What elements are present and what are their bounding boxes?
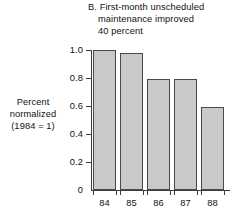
y-tick-mark	[86, 134, 92, 135]
bar-chart-figure: B. First-month unscheduled maintenance i…	[0, 0, 233, 221]
x-tick-mark	[93, 190, 94, 195]
x-tick-mark	[116, 190, 117, 195]
y-tick-label: 0.6	[70, 101, 83, 111]
x-tick-label-86: 86	[153, 198, 164, 208]
y-tick-label: 0.2	[70, 157, 83, 167]
y-axis-label: Percent normalized (1984 = 1)	[2, 96, 64, 133]
y-tick-mark	[86, 50, 92, 51]
chart-title-line-3: 40 percent	[88, 25, 233, 37]
chart-title-line-1: B. First-month unscheduled	[88, 1, 233, 13]
x-tick-mark	[120, 190, 121, 195]
x-tick-mark	[224, 190, 225, 195]
bar-84	[93, 50, 116, 190]
x-tick-mark	[143, 190, 144, 195]
bar-88	[201, 107, 224, 190]
y-axis-label-line-1: Percent	[2, 96, 64, 108]
y-tick-mark	[86, 162, 92, 163]
x-tick-mark	[147, 190, 148, 195]
x-tick-mark	[174, 190, 175, 195]
y-tick-mark	[86, 106, 92, 107]
x-tick-label-85: 85	[126, 198, 137, 208]
y-axis-label-line-2: normalized	[2, 108, 64, 120]
y-tick-mark	[86, 190, 92, 191]
x-tick-label-88: 88	[207, 198, 218, 208]
bar-85	[120, 53, 143, 190]
plot-area: 1.0 0.8 0.6 0.4 0.2 0	[91, 50, 233, 190]
y-tick-label: 1.0	[70, 45, 83, 55]
x-tick-label-87: 87	[180, 198, 191, 208]
y-tick-label: 0.4	[70, 129, 83, 139]
x-tick-mark	[201, 190, 202, 195]
bar-86	[147, 79, 170, 190]
x-tick-mark	[170, 190, 171, 195]
chart-title: B. First-month unscheduled maintenance i…	[88, 1, 233, 38]
y-axis-label-line-3: (1984 = 1)	[2, 120, 64, 132]
y-tick-label: 0.8	[70, 73, 83, 83]
bar-87	[174, 79, 197, 190]
y-tick-mark	[86, 78, 92, 79]
x-tick-mark	[197, 190, 198, 195]
x-axis-line	[91, 190, 230, 191]
x-tick-label-84: 84	[99, 198, 110, 208]
chart-title-line-2: maintenance improved	[88, 13, 233, 25]
y-tick-label: 0	[78, 185, 83, 195]
